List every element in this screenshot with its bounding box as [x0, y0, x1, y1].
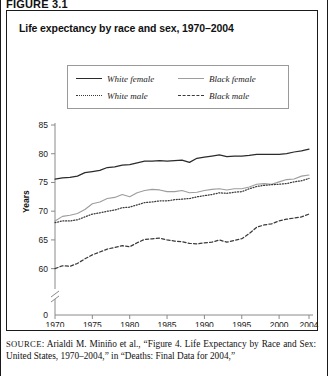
svg-text:2000: 2000	[270, 320, 289, 327]
page-left-rule	[0, 0, 1, 376]
svg-text:60: 60	[39, 264, 49, 274]
svg-text:75: 75	[39, 177, 49, 187]
source-keyword: SOURCE	[6, 339, 42, 349]
legend-label: White male	[107, 91, 148, 101]
legend-label: White female	[107, 74, 154, 84]
svg-text:80: 80	[39, 149, 49, 159]
series-line-black-male	[55, 214, 309, 269]
svg-text:1975: 1975	[83, 320, 102, 327]
svg-text:0: 0	[43, 310, 48, 320]
legend-label: Black female	[209, 74, 256, 84]
legend-item-white-female: White female	[76, 74, 178, 84]
legend-row: White female Black female	[76, 70, 280, 87]
chart-title: Life expectancy by race and sex, 1970–20…	[19, 22, 234, 34]
legend-label: Black male	[209, 91, 249, 101]
plot-area: 6065707580850197019751980198519901995200…	[7, 115, 319, 327]
svg-text:1990: 1990	[195, 320, 214, 327]
svg-text:1970: 1970	[46, 320, 65, 327]
svg-text:85: 85	[39, 120, 49, 130]
svg-text:1980: 1980	[120, 320, 139, 327]
legend-item-black-female: Black female	[178, 74, 280, 84]
svg-text:2004: 2004	[300, 320, 319, 327]
legend-item-white-male: White male	[76, 91, 178, 101]
legend-item-black-male: Black male	[178, 91, 280, 101]
source-note: SOURCE: Arialdi M. Miniño et al., “Figur…	[6, 338, 316, 363]
svg-text:70: 70	[39, 206, 49, 216]
source-text: : Arialdi M. Miniño et al., “Figure 4. L…	[6, 339, 316, 361]
svg-text:1995: 1995	[232, 320, 251, 327]
svg-text:1985: 1985	[158, 320, 177, 327]
figure-label: FIGURE 3.1	[6, 0, 68, 10]
series-line-black-female	[55, 175, 309, 221]
legend-row: White male Black male	[76, 87, 280, 104]
line-chart-svg: 6065707580850197019751980198519901995200…	[7, 115, 319, 327]
svg-text:65: 65	[39, 235, 49, 245]
chart-frame: Life expectancy by race and sex, 1970–20…	[6, 10, 318, 331]
series-line-white-female	[55, 149, 309, 179]
chart-legend: White female Black female White male Bla…	[67, 65, 289, 109]
series-line-white-male	[55, 178, 309, 222]
